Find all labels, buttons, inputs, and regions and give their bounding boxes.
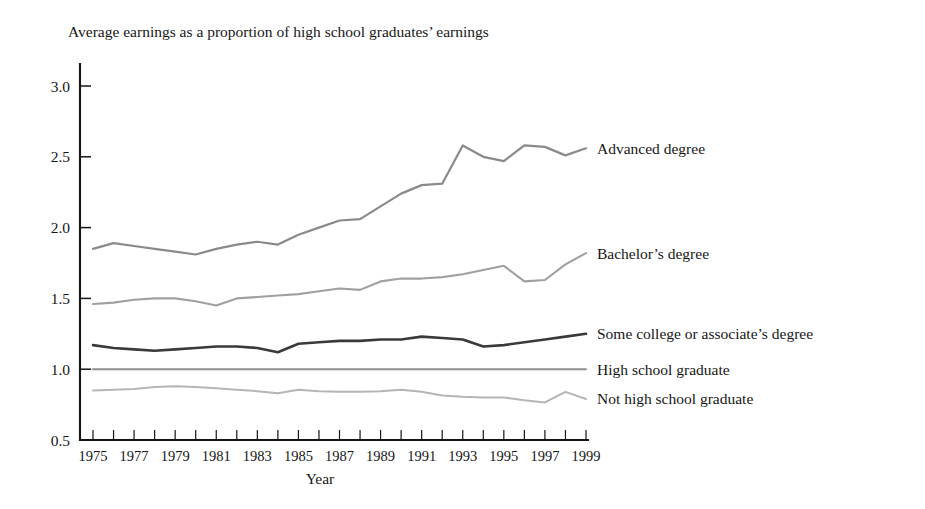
series-label: Bachelor’s degree: [597, 245, 709, 262]
x-axis-title: Year: [0, 470, 640, 488]
x-axis-tick-label: 1985: [284, 448, 313, 464]
x-axis-tick-label: 1975: [79, 448, 108, 464]
x-axis-tick-label: 1999: [572, 448, 601, 464]
x-axis-tick-label: 1987: [325, 448, 354, 464]
x-axis-tick-label: 1979: [161, 448, 190, 464]
x-axis-tick-label: 1989: [366, 448, 395, 464]
y-axis: 0.51.01.52.02.53.0: [51, 64, 91, 449]
x-axis-tick-label: 1977: [120, 448, 149, 464]
series-line: [93, 334, 586, 352]
series-label: Not high school graduate: [597, 390, 753, 407]
x-axis: 1975197719791981198319851987198919911993…: [79, 430, 601, 464]
x-axis-tick-label: 1991: [407, 448, 436, 464]
y-axis-tick-label: 2.0: [51, 219, 71, 236]
x-axis-tick-label: 1981: [202, 448, 231, 464]
chart-plot-area: 0.51.01.52.02.53.0 197519771979198119831…: [0, 0, 925, 509]
series-label: Advanced degree: [597, 140, 705, 157]
series-line: [93, 386, 586, 402]
series-lines: [93, 145, 586, 402]
x-axis-tick-label: 1983: [243, 448, 272, 464]
x-axis-tick-label: 1997: [530, 448, 559, 464]
y-axis-tick-label: 1.5: [51, 290, 71, 307]
series-line: [93, 253, 586, 305]
series-labels: Advanced degreeBachelor’s degreeSome col…: [597, 140, 813, 408]
earnings-proportion-line-chart: Average earnings as a proportion of high…: [0, 0, 925, 509]
y-axis-tick-label: 0.5: [51, 432, 71, 449]
y-axis-tick-label: 3.0: [51, 78, 71, 95]
series-label: Some college or associate’s degree: [597, 325, 813, 342]
y-axis-tick-label: 1.0: [51, 361, 71, 378]
x-axis-tick-label: 1993: [448, 448, 477, 464]
series-label: High school graduate: [597, 361, 730, 378]
series-line: [93, 145, 586, 254]
y-axis-tick-label: 2.5: [51, 148, 71, 165]
x-axis-tick-label: 1995: [489, 448, 518, 464]
